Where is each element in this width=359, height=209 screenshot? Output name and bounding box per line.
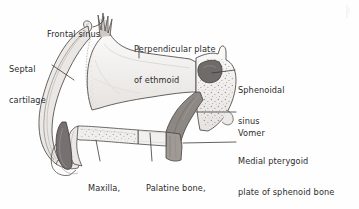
label-septal-cartilage-line2: cartilage xyxy=(9,95,46,105)
label-sphenoidal-sinus-line1: Sphenoidal xyxy=(238,85,285,95)
palatine-bone-region xyxy=(138,130,166,146)
maxilla-palatine-process-region xyxy=(74,126,138,144)
crista-galli xyxy=(98,13,112,37)
label-palatine-bone-line1: Palatine bone, xyxy=(146,183,206,193)
label-septal-cartilage: Septal cartilage xyxy=(9,44,46,126)
label-maxilla-line1: Maxilla, xyxy=(88,183,122,193)
figure-canvas: Frontal sinus Septal cartilage Perpendic… xyxy=(0,0,359,209)
label-medial-pterygoid-line1: Medial pterygoid xyxy=(238,156,334,166)
label-maxilla-palatine-process: Maxilla, palatine process xyxy=(88,163,122,209)
label-perpendicular-plate-of-ethmoid: Perpendicular plate of ethmoid xyxy=(134,24,216,106)
label-perpendicular-plate-line1: Perpendicular plate xyxy=(134,44,216,54)
label-frontal-sinus: Frontal sinus xyxy=(47,9,100,60)
label-medial-pterygoid-line2: plate of sphenoid bone xyxy=(238,187,334,197)
label-palatine-bone-horizontal-process: Palatine bone, horizontal process xyxy=(146,163,206,209)
label-frontal-sinus-line1: Frontal sinus xyxy=(47,29,100,39)
leader-medial-pterygoid xyxy=(183,142,236,143)
label-perpendicular-plate-line2: of ethmoid xyxy=(134,75,216,85)
medial-pterygoid-plate-region xyxy=(166,132,182,161)
scan-edge-artifact xyxy=(347,5,349,18)
label-medial-pterygoid-plate: Medial pterygoid plate of sphenoid bone xyxy=(238,136,334,209)
label-septal-cartilage-line1: Septal xyxy=(9,64,46,74)
leader-maxilla xyxy=(96,140,100,161)
